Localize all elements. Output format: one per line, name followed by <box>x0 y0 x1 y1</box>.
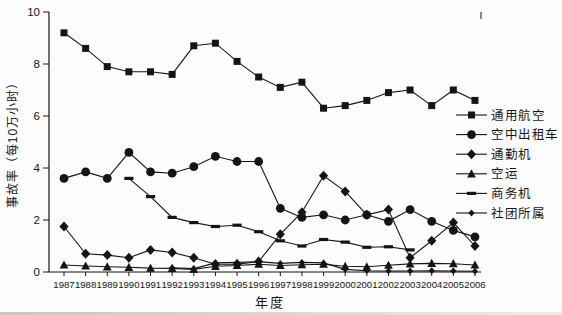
x-axis-tick-label: 1994 <box>205 279 227 290</box>
diamond-marker <box>467 149 476 159</box>
legend-label-3: 空运 <box>491 167 518 181</box>
x-axis-tick-label: 2001 <box>356 279 377 290</box>
x-axis-tick-label: 1998 <box>291 279 312 290</box>
circle-marker <box>341 216 350 225</box>
x-axis-tick-label: 1993 <box>183 279 204 290</box>
x-axis-tick-label: 1989 <box>97 279 118 290</box>
circle-marker <box>427 217 436 226</box>
circle-marker <box>189 162 198 171</box>
square-marker <box>298 79 305 86</box>
diamond-marker <box>427 236 436 246</box>
diamond-marker <box>103 250 112 260</box>
accident-rate-line-chart-figure: 0246810198719881989199019911992199319941… <box>0 0 562 315</box>
dash-marker <box>211 225 220 228</box>
circle-marker <box>103 174 112 183</box>
x-axis-tick-label: 1992 <box>161 279 182 290</box>
square-marker <box>277 84 284 91</box>
square-marker <box>234 58 241 65</box>
dash-marker <box>254 230 263 233</box>
dash-marker <box>276 239 285 242</box>
x-axis-tick-label: 1997 <box>270 279 291 290</box>
circle-marker <box>467 130 476 139</box>
y-axis-tick-label: 2 <box>34 214 40 226</box>
square-marker <box>104 63 111 70</box>
dash-marker <box>168 216 177 219</box>
circle-marker <box>124 148 133 157</box>
circle-marker <box>471 233 480 242</box>
circle-marker <box>146 168 155 177</box>
diamond-marker <box>384 205 393 215</box>
square-marker <box>407 87 414 94</box>
small-diamond-marker <box>450 268 456 275</box>
y-axis-tick-label: 0 <box>34 266 40 278</box>
dash-marker <box>384 245 393 248</box>
x-axis-tick-label: 1996 <box>248 279 269 290</box>
triangle-marker <box>60 260 69 268</box>
square-marker <box>212 40 219 47</box>
small-diamond-marker <box>407 268 413 275</box>
square-marker <box>125 68 132 75</box>
y-axis-tick-label: 8 <box>34 58 40 70</box>
x-axis-tick-label: 1995 <box>226 279 247 290</box>
circle-marker <box>81 168 90 177</box>
circle-marker <box>211 152 220 161</box>
x-axis-tick-label: 2000 <box>335 279 356 290</box>
x-axis-tick-label: 1999 <box>313 279 334 290</box>
circle-marker <box>319 210 328 219</box>
small-diamond-marker <box>472 268 478 275</box>
square-marker <box>468 112 475 119</box>
diamond-marker <box>168 248 177 258</box>
x-axis-tick-label: 2005 <box>443 279 464 290</box>
x-axis-tick-label: 2004 <box>421 279 443 290</box>
series-line-1 <box>64 152 475 237</box>
square-marker <box>342 102 349 109</box>
dash-marker <box>467 192 476 195</box>
dash-marker <box>297 244 306 247</box>
dash-marker <box>319 238 328 241</box>
x-axis-title: 年度 <box>242 292 298 311</box>
circle-marker <box>233 157 242 166</box>
circle-marker <box>254 157 263 166</box>
diamond-marker <box>124 253 133 263</box>
dash-marker <box>341 241 350 244</box>
x-axis-tick-label: 2003 <box>399 279 420 290</box>
small-diamond-marker <box>468 210 474 217</box>
x-axis-tick-label: 1987 <box>53 279 74 290</box>
diamond-marker <box>146 245 155 255</box>
line-chart-canvas: 0246810198719881989199019911992199319941… <box>0 0 562 315</box>
square-marker <box>363 97 370 104</box>
legend-label-4: 商务机 <box>491 186 532 201</box>
dash-marker <box>189 221 198 224</box>
square-marker <box>147 68 154 75</box>
circle-marker <box>168 169 177 178</box>
x-axis-tick-label: 1990 <box>118 279 139 290</box>
dash-marker <box>146 195 155 198</box>
square-marker <box>190 42 197 49</box>
x-axis-tick-label: 1991 <box>140 279 161 290</box>
circle-marker <box>384 217 393 226</box>
dash-marker <box>232 224 241 227</box>
square-marker <box>255 74 262 81</box>
square-marker <box>428 102 435 109</box>
square-marker <box>320 105 327 112</box>
dash-marker <box>362 246 371 249</box>
diamond-marker <box>189 253 198 263</box>
legend-label-1: 空中出租车 <box>491 127 559 142</box>
square-marker <box>471 97 478 104</box>
y-axis-tick-label: 10 <box>27 6 40 18</box>
dash-marker <box>405 248 414 251</box>
square-marker <box>169 71 176 78</box>
legend-label-0: 通用航空 <box>491 108 545 123</box>
circle-marker <box>60 174 69 183</box>
small-diamond-marker <box>429 267 435 274</box>
square-marker <box>82 45 89 52</box>
x-axis-tick-label: 2002 <box>378 279 399 290</box>
square-marker <box>385 89 392 96</box>
circle-marker <box>406 205 415 214</box>
x-axis-tick-label: 1988 <box>75 279 96 290</box>
legend-label-5: 社团所属 <box>491 206 545 221</box>
square-marker <box>61 29 68 36</box>
y-axis-tick-label: 4 <box>34 162 41 174</box>
square-marker <box>450 87 457 94</box>
x-axis-tick-label: 2006 <box>464 279 485 290</box>
